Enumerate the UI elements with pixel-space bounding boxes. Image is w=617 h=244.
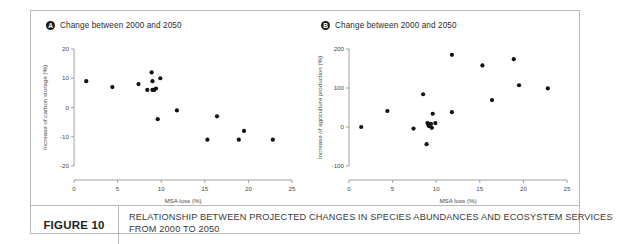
caption-line-1: RELATIONSHIP BETWEEN PROJECTED CHANGES I… <box>129 212 613 224</box>
scatter-point <box>430 126 434 130</box>
scatter-point <box>84 79 88 83</box>
scatter-point <box>136 82 140 86</box>
scatter-point <box>237 138 241 142</box>
scatter-point <box>385 109 389 113</box>
scatter-point <box>429 122 433 126</box>
x-tick-label: 10 <box>158 185 165 192</box>
panel-a-scatter-svg: -20-10010200510152025MSA loss (%)Increas… <box>30 10 305 206</box>
scatter-point <box>450 53 454 57</box>
scatter-point <box>110 85 114 89</box>
y-tick-label: 100 <box>334 84 345 91</box>
scatter-point <box>205 138 209 142</box>
y-tick-label: -20 <box>60 162 70 169</box>
x-tick-label: 0 <box>347 185 351 192</box>
figure-caption-bar: FIGURE 10 RELATIONSHIP BETWEEN PROJECTED… <box>30 206 580 244</box>
scatter-point <box>150 70 154 74</box>
y-tick-label: -10 <box>60 133 70 140</box>
scatter-point <box>480 63 484 67</box>
scatter-point <box>421 92 425 96</box>
scatter-point <box>175 108 179 112</box>
x-axis-title: MSA loss (%) <box>164 197 201 204</box>
caption-line-2: FROM 2000 TO 2050 <box>129 224 613 236</box>
scatter-point <box>546 86 550 90</box>
panel-b-scatter-svg: -10001002000510152025MSA loss (%)Increas… <box>305 10 580 206</box>
y-tick-label: 10 <box>62 74 69 81</box>
scatter-point <box>158 76 162 80</box>
y-tick-label: 20 <box>62 45 69 52</box>
y-tick-label: 200 <box>334 45 345 52</box>
scatter-point <box>271 138 275 142</box>
x-tick-label: 10 <box>433 185 440 192</box>
x-tick-label: 25 <box>564 185 571 192</box>
y-tick-label: 0 <box>341 123 345 130</box>
panel-b: B Change between 2000 and 2050 -10001002… <box>305 10 580 206</box>
scatter-point <box>433 121 437 125</box>
scatter-point <box>145 88 149 92</box>
panel-a: A Change between 2000 and 2050 -20-10010… <box>30 10 305 206</box>
x-tick-label: 25 <box>289 185 296 192</box>
scatter-point <box>517 83 521 87</box>
y-tick-label: 0 <box>66 104 70 111</box>
scatter-point <box>156 117 160 121</box>
scatter-point <box>512 57 516 61</box>
panel-b-plot: -10001002000510152025MSA loss (%)Increas… <box>305 10 580 206</box>
figure-caption-text: RELATIONSHIP BETWEEN PROJECTED CHANGES I… <box>119 206 617 244</box>
x-tick-label: 20 <box>245 185 252 192</box>
x-tick-label: 5 <box>391 185 395 192</box>
scatter-point <box>431 112 435 116</box>
y-tick-label: -100 <box>332 162 345 169</box>
y-axis-title: Increase of carbon storage (%) <box>41 65 48 150</box>
x-tick-label: 20 <box>520 185 527 192</box>
scatter-point <box>154 86 158 90</box>
scatter-point <box>425 142 429 146</box>
scatter-point <box>490 98 494 102</box>
x-tick-label: 5 <box>116 185 120 192</box>
scatter-point <box>411 126 415 130</box>
scatter-point <box>359 125 363 129</box>
x-tick-label: 0 <box>72 185 76 192</box>
scatter-point <box>450 110 454 114</box>
panel-a-plot: -20-10010200510152025MSA loss (%)Increas… <box>30 10 305 206</box>
x-tick-label: 15 <box>476 185 483 192</box>
scatter-point <box>215 114 219 118</box>
scatter-point <box>242 129 246 133</box>
x-axis-title: MSA loss (%) <box>439 197 476 204</box>
charts-area: A Change between 2000 and 2050 -20-10010… <box>30 10 580 206</box>
scatter-point <box>150 79 154 83</box>
x-tick-label: 15 <box>201 185 208 192</box>
figure-number-label: FIGURE 10 <box>30 206 118 244</box>
y-axis-title: Increase of agriculture production (%) <box>316 56 323 159</box>
